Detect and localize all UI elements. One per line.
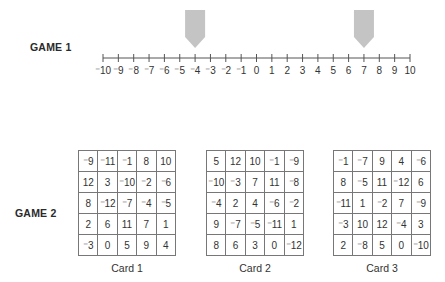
card-cell: 6 <box>226 235 245 256</box>
card-cell: 4 <box>392 151 411 172</box>
card-cell: 0 <box>392 235 411 256</box>
tick-label: 7 <box>361 65 367 76</box>
tick-label: 0 <box>254 65 260 76</box>
card-cell: ⁻9 <box>79 151 98 172</box>
card-cell: 5 <box>207 151 226 172</box>
card-cell: 10 <box>353 214 372 235</box>
card-cell: 5 <box>117 235 136 256</box>
card-cell: ⁻12 <box>284 235 303 256</box>
card-cell: 6 <box>98 214 117 235</box>
card-cell: ⁻8 <box>353 235 372 256</box>
card-cell: ⁻8 <box>284 172 303 193</box>
card-cell: ⁻7 <box>353 151 372 172</box>
card-cell: 1 <box>156 214 175 235</box>
card-cell: ⁻1 <box>334 151 353 172</box>
card-cell: ⁻7 <box>226 214 245 235</box>
card-cell: 11 <box>372 172 391 193</box>
card-cell: ⁻7 <box>117 193 136 214</box>
bingo-card-1: ⁻9⁻11⁻1810123⁻10⁻2⁻68⁻12⁻7⁻4⁻5261171⁻305… <box>78 150 176 274</box>
tick-label: 6 <box>346 65 352 76</box>
card-cell: ⁻4 <box>207 193 226 214</box>
number-line: ⁻10⁻9⁻8⁻7⁻6⁻5⁻4⁻3⁻2⁻1012345678910 <box>0 0 445 90</box>
card-cell: ⁻6 <box>265 193 284 214</box>
tick-label: ⁻6 <box>159 65 170 76</box>
card-2-caption: Card 2 <box>206 262 304 274</box>
tick-label: ⁻5 <box>174 65 185 76</box>
card-cell: 12 <box>79 172 98 193</box>
card-cell: ⁻4 <box>137 193 156 214</box>
card-cell: 3 <box>411 214 430 235</box>
card-cell: ⁻9 <box>284 151 303 172</box>
card-cell: 7 <box>392 193 411 214</box>
card-cell: 5 <box>372 235 391 256</box>
card-row: 8630⁻12 <box>207 235 304 256</box>
card-cell: 9 <box>372 151 391 172</box>
card-row: ⁻10⁻3711⁻8 <box>207 172 304 193</box>
tick-label: ⁻1 <box>236 65 247 76</box>
card-cell: 3 <box>245 235 264 256</box>
card-cell: ⁻3 <box>334 214 353 235</box>
card-cell: 7 <box>137 214 156 235</box>
card-cell: 2 <box>226 193 245 214</box>
card-cell: 1 <box>353 193 372 214</box>
card-cell: ⁻11 <box>98 151 117 172</box>
tick-label: 1 <box>269 65 275 76</box>
card-cell: 4 <box>156 235 175 256</box>
card-row: 261171 <box>79 214 176 235</box>
card-row: ⁻111⁻27⁻9 <box>334 193 431 214</box>
card-cell: ⁻6 <box>156 172 175 193</box>
tick-label: ⁻8 <box>128 65 139 76</box>
card-cell: 8 <box>79 193 98 214</box>
card-cell: 12 <box>226 151 245 172</box>
card-cell: ⁻3 <box>226 172 245 193</box>
card-row: 51210⁻1⁻9 <box>207 151 304 172</box>
card-cell: 1 <box>284 214 303 235</box>
card-cell: 10 <box>156 151 175 172</box>
card-cell: ⁻6 <box>411 151 430 172</box>
card-cell: ⁻11 <box>265 214 284 235</box>
card-cell: 3 <box>98 172 117 193</box>
tick-label: 4 <box>315 65 321 76</box>
card-row: ⁻1⁻794⁻6 <box>334 151 431 172</box>
tick-label: 10 <box>404 65 416 76</box>
tick-label: ⁻3 <box>205 65 216 76</box>
card-cell: 6 <box>411 172 430 193</box>
card-1-caption: Card 1 <box>78 262 176 274</box>
card-1-grid: ⁻9⁻11⁻1810123⁻10⁻2⁻68⁻12⁻7⁻4⁻5261171⁻305… <box>78 150 176 256</box>
card-cell: ⁻5 <box>353 172 372 193</box>
card-cell: 8 <box>334 172 353 193</box>
card-cell: ⁻10 <box>117 172 136 193</box>
card-row: 9⁻7⁻5⁻111 <box>207 214 304 235</box>
card-cell: 8 <box>207 235 226 256</box>
card-cell: ⁻2 <box>372 193 391 214</box>
card-row: 123⁻10⁻2⁻6 <box>79 172 176 193</box>
card-3-grid: ⁻1⁻794⁻68⁻511⁻126⁻111⁻27⁻9⁻31012⁻432⁻850… <box>333 150 431 256</box>
card-cell: ⁻1 <box>265 151 284 172</box>
tick-label: ⁻2 <box>221 65 232 76</box>
card-2-grid: 51210⁻1⁻9⁻10⁻3711⁻8⁻424⁻6⁻29⁻7⁻5⁻1118630… <box>206 150 304 256</box>
bingo-card-2: 51210⁻1⁻9⁻10⁻3711⁻8⁻424⁻6⁻29⁻7⁻5⁻1118630… <box>206 150 304 274</box>
card-cell: ⁻5 <box>245 214 264 235</box>
card-cell: 2 <box>79 214 98 235</box>
card-cell: ⁻10 <box>411 235 430 256</box>
card-cell: 0 <box>98 235 117 256</box>
card-cell: ⁻10 <box>207 172 226 193</box>
card-cell: ⁻12 <box>392 172 411 193</box>
card-cell: 11 <box>265 172 284 193</box>
card-cell: ⁻2 <box>137 172 156 193</box>
card-cell: 4 <box>245 193 264 214</box>
card-row: 2⁻850⁻10 <box>334 235 431 256</box>
card-cell: ⁻3 <box>79 235 98 256</box>
card-cell: ⁻2 <box>284 193 303 214</box>
card-row: 8⁻12⁻7⁻4⁻5 <box>79 193 176 214</box>
card-cell: ⁻1 <box>117 151 136 172</box>
game-2-label: GAME 2 <box>15 207 56 219</box>
card-cell: 0 <box>265 235 284 256</box>
card-cell: 7 <box>245 172 264 193</box>
card-cell: 11 <box>117 214 136 235</box>
card-cell: 9 <box>207 214 226 235</box>
card-3-caption: Card 3 <box>333 262 431 274</box>
marker-arrow-icon <box>354 10 374 48</box>
card-cell: ⁻12 <box>98 193 117 214</box>
card-cell: 12 <box>372 214 391 235</box>
